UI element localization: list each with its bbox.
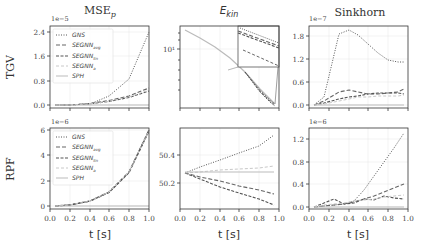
- panel-rpf-sinkhorn: 1.2 0.8 0.4 0.0: [293, 128, 408, 212]
- ytick: 6: [40, 126, 45, 135]
- legend: GNS SEGNNavg SEGNNlin SEGNNa SPH: [53, 131, 113, 185]
- ytick: 2: [40, 177, 45, 186]
- sci-tgv-mse: 1e−5: [51, 15, 69, 23]
- sci-rpf-sinkhorn: 1e−6: [309, 118, 327, 126]
- legend-gns: GNS: [72, 133, 85, 140]
- legend-sph: SPH: [72, 72, 84, 79]
- svg-text:1.0: 1.0: [143, 214, 155, 223]
- svg-text:0.2: 0.2: [323, 214, 334, 223]
- col-title-ekin: Ekin: [220, 4, 239, 19]
- svg-text:1.0: 1.0: [402, 214, 414, 223]
- svg-text:0.6: 0.6: [103, 214, 115, 223]
- svg-text:0.4: 0.4: [343, 214, 355, 223]
- svg-text:0.8: 0.8: [123, 214, 135, 223]
- ytick: 0.0: [293, 101, 305, 110]
- sci-tgv-sinkhorn: 1e−7: [309, 15, 327, 23]
- xlabel-ekin: t [s]: [218, 228, 240, 241]
- xlabel-sinkhorn: t [s]: [347, 228, 369, 241]
- ytick: 0: [40, 202, 45, 211]
- svg-text:0.4: 0.4: [214, 214, 226, 223]
- xticks-mse: 0.0 0.2 0.4 0.6 0.8 1.0: [44, 214, 155, 223]
- col-title-sinkhorn: Sinkhorn: [335, 6, 386, 19]
- sci-rpf-mse: 1e−6: [51, 118, 69, 126]
- panel-rpf-ekin: 50.4 50.2: [159, 128, 279, 212]
- svg-text:0.0: 0.0: [174, 214, 186, 223]
- svg-text:0.6: 0.6: [362, 214, 374, 223]
- panel-tgv-sinkhorn: 1.8 1.2 0.6 0.0: [293, 26, 408, 111]
- panel-rpf-mse: 6 4 2 0 GNS SEGNNavg SEGNNlin SEGNNa SPH: [40, 126, 149, 213]
- ytick: 0.8: [34, 77, 46, 86]
- ytick: 4: [40, 151, 45, 160]
- ytick: 2.4: [34, 28, 46, 37]
- ytick: 50.4: [159, 151, 175, 160]
- svg-text:0.2: 0.2: [64, 214, 75, 223]
- row-label-tgv: TGV: [4, 54, 17, 79]
- ytick: 50.2: [159, 179, 175, 188]
- ytick: 0.0: [34, 101, 46, 110]
- col-title-mse: MSEp: [84, 4, 116, 19]
- xticks-sinkhorn: 0.0 0.2 0.4 0.6 0.8 1.0: [303, 214, 414, 223]
- svg-text:0.8: 0.8: [253, 214, 265, 223]
- ytick: 0.0: [293, 203, 305, 212]
- figure: MSEp Ekin Sinkhorn TGV RPF 1e−5 1e−7 1e−…: [0, 0, 427, 252]
- ytick: 10¹: [163, 45, 175, 54]
- ytick: 1.2: [293, 135, 304, 144]
- legend: GNS SEGNNavg SEGNNlin SEGNNa SPH: [53, 29, 113, 83]
- ytick: 1.6: [34, 52, 46, 61]
- xlabel-mse: t [s]: [89, 228, 111, 241]
- svg-text:0.0: 0.0: [44, 214, 56, 223]
- svg-text:0.0: 0.0: [303, 214, 315, 223]
- svg-text:0.6: 0.6: [233, 214, 245, 223]
- ytick: 0.8: [293, 158, 305, 167]
- svg-text:0.8: 0.8: [382, 214, 394, 223]
- panel-tgv-mse: 2.4 1.6 0.8 0.0 GNS SEGNNavg SEGNNlin SE…: [34, 26, 149, 111]
- svg-text:0.4: 0.4: [84, 214, 96, 223]
- xticks-ekin: 0.0 0.2 0.4 0.6 0.8 1.0: [174, 214, 285, 223]
- ytick: 0.4: [293, 180, 305, 189]
- ytick: 0.6: [293, 78, 305, 87]
- row-label-rpf: RPF: [4, 157, 17, 181]
- legend-sph: SPH: [72, 174, 84, 181]
- panel-tgv-ekin: 10¹: [163, 26, 279, 111]
- ytick: 1.2: [293, 55, 304, 64]
- svg-text:1.0: 1.0: [273, 214, 285, 223]
- ytick: 1.8: [293, 32, 305, 41]
- svg-text:0.2: 0.2: [194, 214, 205, 223]
- legend-gns: GNS: [72, 31, 85, 38]
